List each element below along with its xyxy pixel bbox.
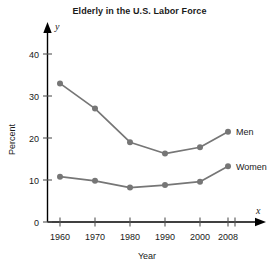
x-axis-symbol: x <box>255 205 261 216</box>
y-tick-label: 0 <box>34 218 39 228</box>
x-axis-arrowhead <box>255 218 266 226</box>
x-tick-label: 2000 <box>190 232 210 242</box>
series-layer <box>57 80 231 190</box>
y-axis-symbol: y <box>54 21 60 32</box>
data-point <box>162 182 168 188</box>
y-tick-labels: 0 10 20 30 40 <box>29 50 39 228</box>
x-tick-labels: 1960 1970 1980 1990 2000 2008 <box>50 232 238 242</box>
line-chart-plot: y x 0 10 20 30 40 Percent <box>0 0 279 268</box>
x-tick-label: 1980 <box>120 232 140 242</box>
y-tick-label: 40 <box>29 50 39 60</box>
x-tick-label: 2008 <box>218 232 238 242</box>
x-axis: x <box>48 205 267 226</box>
data-point <box>57 174 63 180</box>
x-tick-label: 1960 <box>50 232 70 242</box>
chart-container: Elderly in the U.S. Labor Force y x 0 10… <box>0 0 279 268</box>
data-point <box>92 106 98 112</box>
series-line-women <box>60 166 228 187</box>
x-tick-label: 1990 <box>155 232 175 242</box>
series-line-men <box>60 83 228 153</box>
series-labels: MenWomen <box>236 127 267 171</box>
x-tick-label: 1970 <box>85 232 105 242</box>
data-point <box>92 178 98 184</box>
x-axis-title: Year <box>138 251 156 261</box>
y-axis-title: Percent <box>7 123 17 155</box>
y-tick-label: 30 <box>29 92 39 102</box>
data-point <box>127 185 133 191</box>
series-label-men: Men <box>236 127 254 137</box>
y-tick-label: 20 <box>29 134 39 144</box>
series-label-women: Women <box>236 162 267 172</box>
data-point <box>127 139 133 145</box>
data-point <box>197 179 203 185</box>
data-point <box>225 163 231 169</box>
y-axis: y <box>43 21 60 222</box>
data-point <box>57 80 63 86</box>
data-point <box>162 151 168 157</box>
y-tick-label: 10 <box>29 176 39 186</box>
data-point <box>225 129 231 135</box>
data-point <box>197 144 203 150</box>
y-axis-arrowhead <box>43 22 51 33</box>
